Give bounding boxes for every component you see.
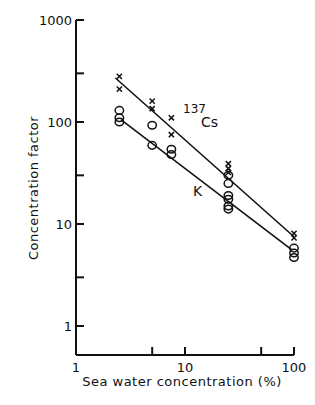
x-marker (226, 161, 231, 166)
series-cs (115, 74, 296, 241)
series-label-cs: Cs (201, 114, 218, 130)
y-axis-title: Concentration factor (26, 116, 41, 260)
x-tick-label: 10 (177, 360, 194, 375)
y-tick-label: 1 (64, 319, 72, 334)
x-marker (169, 115, 174, 120)
axes: 1101001000110100 (39, 13, 307, 375)
x-marker (150, 99, 155, 104)
x-marker (117, 74, 122, 79)
circle-marker (148, 121, 156, 129)
x-tick-label: 1 (72, 360, 80, 375)
x-marker (169, 132, 174, 137)
series-label-k: K (193, 183, 203, 199)
x-tick-label: 100 (282, 360, 307, 375)
chart: 1101001000110100 137CsK Sea water concen… (0, 0, 315, 405)
x-axis-title: Sea water concentration (%) (82, 374, 282, 389)
y-tick-label: 100 (47, 115, 72, 130)
circle-marker (115, 107, 123, 115)
y-tick-label: 1000 (39, 13, 72, 28)
y-tick-label: 10 (55, 217, 72, 232)
plot-area: 137CsK (115, 74, 298, 261)
circle-marker (224, 180, 232, 188)
x-marker (117, 87, 122, 92)
fit-line (121, 120, 291, 250)
